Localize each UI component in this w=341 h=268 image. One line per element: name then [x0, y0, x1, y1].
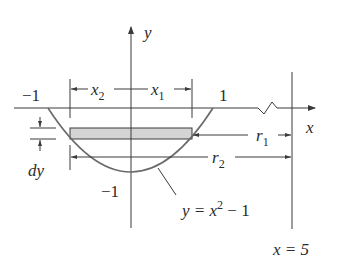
tick-label-y-neg-one: −1 — [101, 182, 119, 201]
label-x2: x2 — [90, 80, 105, 103]
tick-label-x-pos-one: 1 — [219, 86, 228, 105]
label-dy: dy — [28, 161, 45, 180]
curve-leader-line — [158, 168, 176, 195]
label-x1: x1 — [150, 80, 165, 103]
curve-equation-label: y = x2 − 1 — [180, 198, 250, 220]
line-x-equals-5-label: x = 5 — [272, 240, 309, 259]
y-axis-label: y — [142, 23, 152, 42]
label-r1: r1 — [256, 126, 269, 149]
label-r2: r2 — [212, 148, 225, 171]
axis-break-icon — [258, 102, 277, 114]
tick-label-x-neg-one: −1 — [22, 86, 40, 105]
x-axis-label: x — [305, 118, 314, 137]
washer-diagram: y x −1 1 −1 x2 x1 r1 r2 dy y = x2 − 1 x … — [0, 0, 341, 268]
